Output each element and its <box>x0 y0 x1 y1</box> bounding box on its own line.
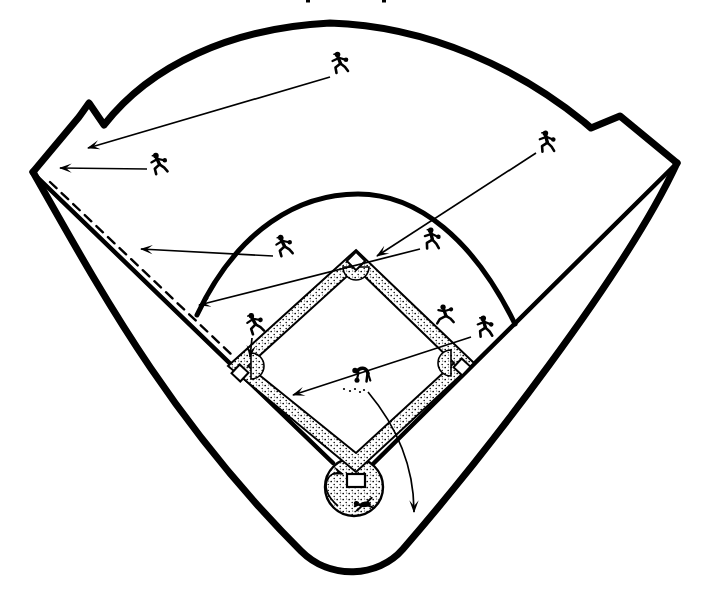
scene-root <box>33 0 677 572</box>
basepath-dirt-band <box>228 250 474 472</box>
first-base-dirt-cutout <box>438 350 451 376</box>
basepath-outer-edge <box>228 250 474 472</box>
dirt-scuff-dot <box>359 391 361 393</box>
shortstop-figure <box>276 234 294 257</box>
left-fielder-figure <box>151 152 168 174</box>
center-fielder-figure <box>333 52 349 73</box>
batter-runner-figure <box>435 303 454 323</box>
third-baseman-figure <box>246 312 265 335</box>
ball-path-dashed-line <box>50 182 232 355</box>
dirt-scuff-dot <box>354 388 356 390</box>
arrow-shortstop-to-foul-line <box>141 249 273 256</box>
outfield-wall <box>33 23 677 172</box>
dirt-scuff-dot <box>349 390 351 392</box>
print-artifact <box>382 0 386 3</box>
baseball-field-diagram <box>0 0 705 608</box>
dirt-scuff-dot <box>363 389 365 391</box>
first-baseman-figure <box>477 315 495 338</box>
field-diagram-page <box>0 0 705 608</box>
arrow-left-fielder-to-corner <box>60 168 147 169</box>
third-base-dirt-cutout <box>251 353 264 379</box>
home-plate <box>347 474 365 487</box>
basepath-inner-edge <box>248 268 454 453</box>
second-baseman-figure <box>423 227 442 250</box>
right-fielder-figure <box>538 130 556 153</box>
print-artifact <box>306 0 310 3</box>
arrow-center-fielder-to-corner <box>88 77 330 148</box>
dirt-scuff-dot <box>343 388 345 390</box>
